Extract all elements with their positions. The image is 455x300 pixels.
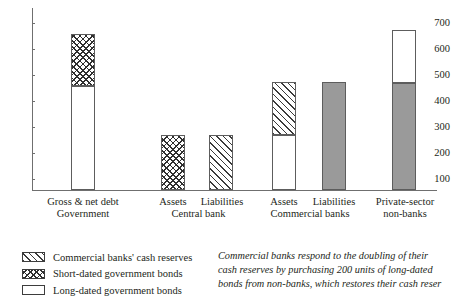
annotation-line-1: Commercial banks respond to the doubling…: [218, 249, 455, 263]
bar-central-bank-assets: [161, 135, 185, 190]
bar-central-bank-liabilities: [209, 135, 233, 190]
segment-short-dated-government-bonds: [71, 34, 95, 86]
segment-short-dated-government-bonds: [161, 135, 185, 190]
legend-swatch-cross-hatch-icon: [22, 269, 45, 279]
legend-item-cash-reserves: Commercial banks' cash reserves: [22, 250, 222, 264]
x-group-label-government: Government: [35, 208, 131, 221]
segment-deposits: [392, 83, 416, 190]
bar-commercial-banks-liabilities: [322, 82, 346, 190]
legend-swatch-white-icon: [22, 285, 45, 295]
segment-deposits: [322, 82, 346, 190]
x-label-central-bank-assets: Assets: [149, 196, 197, 209]
x-axis-line: [32, 190, 437, 191]
legend-item-short-dated-bonds: Short-dated government bonds: [22, 267, 222, 281]
bar-commercial-banks-assets: [272, 82, 296, 190]
bar-private-sector-non-banks: [392, 30, 416, 190]
segment-long-dated-government-bonds: [392, 30, 416, 83]
plot-region: [0, 0, 450, 190]
legend-swatch-diagonal-hatch-icon: [22, 252, 45, 262]
segment-commercial-banks-cash-reserves: [272, 82, 296, 135]
segment-long-dated-government-bonds: [71, 86, 95, 190]
x-group-label-central-bank: Central bank: [149, 208, 248, 221]
bar-chart: 100 200 300 400 500 600 700: [0, 0, 450, 225]
segment-commercial-banks-cash-reserves: [209, 135, 233, 190]
legend-item-long-dated-bonds: Long-dated government bonds: [22, 283, 222, 297]
x-label-central-bank-liabilities: Liabilities: [196, 196, 248, 209]
x-label-government-bar: Gross & net debt: [35, 196, 131, 209]
annotation-line-3: bonds from non-banks, which restores the…: [218, 277, 455, 291]
x-label-commercial-banks-liabilities: Liabilities: [307, 196, 361, 209]
chart-annotation: Commercial banks respond to the doubling…: [218, 249, 455, 292]
x-group-label-commercial-banks: Commercial banks: [258, 208, 362, 221]
legend-label-long-dated-bonds: Long-dated government bonds: [53, 285, 182, 296]
bar-government-gross-net-debt: [71, 34, 95, 190]
segment-long-dated-government-bonds: [272, 135, 296, 190]
x-label-private-sector-non-banks-line2: non-banks: [366, 208, 444, 221]
annotation-line-2: cash reserves by purchasing 200 units of…: [218, 263, 455, 277]
chart-legend: Commercial banks' cash reserves Short-da…: [22, 250, 222, 300]
x-label-commercial-banks-assets: Assets: [260, 196, 308, 209]
x-label-private-sector-non-banks-line1: Private-sector: [366, 196, 444, 209]
legend-label-short-dated-bonds: Short-dated government bonds: [53, 268, 182, 279]
legend-label-cash-reserves: Commercial banks' cash reserves: [53, 252, 192, 263]
